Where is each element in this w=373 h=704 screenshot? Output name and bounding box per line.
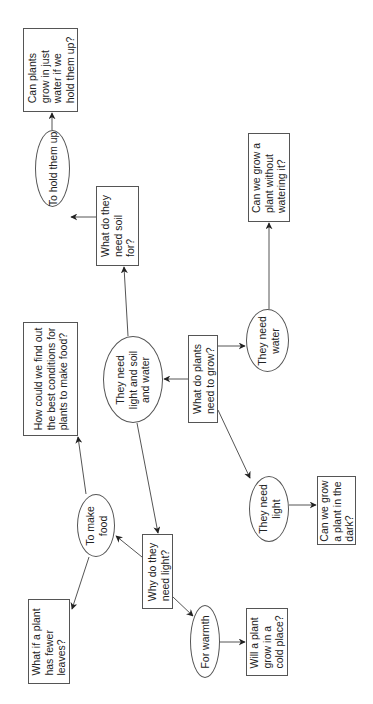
node-label: Why do they need light?	[145, 542, 170, 600]
node-label: For warmth	[199, 615, 212, 668]
node-label: What do plants need to grow?	[191, 344, 216, 414]
edge-make-food-to-best-conditions	[78, 437, 86, 494]
node-why-do-they-need-light: Why do they need light?	[142, 534, 173, 609]
node-label: What do they need soil for?	[99, 195, 137, 257]
node-they-need-water: They need water	[246, 309, 289, 372]
concept-map: Can plants grow in just water if we hold…	[0, 0, 373, 704]
node-label: They need water	[255, 316, 280, 366]
node-for-warmth: For warmth	[190, 605, 220, 678]
node-grow-without-watering: Can we grow a plant without watering it?	[248, 133, 290, 222]
node-what-do-they-need-soil-for: What do they need soil for?	[96, 186, 139, 266]
node-what-do-plants-need-to-grow: What do plants need to grow?	[188, 335, 218, 423]
node-label: What if a plant has fewer leaves?	[30, 608, 68, 675]
node-label: Can we grow a plant in the dark?	[318, 480, 356, 541]
edge-lsw-to-soil-for	[124, 267, 128, 336]
node-they-need-light: They need light	[249, 476, 289, 542]
node-to-hold-them-up: To hold them up	[35, 130, 70, 207]
edge-lsw-to-why-light	[137, 423, 158, 533]
edge-why-light-to-make-food	[116, 536, 142, 557]
node-fewer-leaves: What if a plant has fewer leaves?	[28, 599, 70, 684]
node-label: They need light and soil and water	[114, 350, 152, 408]
node-label: How could we find out the best condition…	[32, 328, 70, 431]
node-light-soil-and-water: They need light and soil and water	[103, 336, 163, 423]
edge-make-food-to-fewer-leaves	[72, 557, 89, 609]
node-label: To hold them up	[46, 131, 59, 206]
edge-root-to-light	[218, 410, 250, 478]
node-grow-in-cold-place: Will a plant grow in a cold place?	[246, 608, 288, 676]
node-grow-plant-in-dark: Can we grow a plant in the dark?	[317, 476, 356, 545]
node-label: Can we grow a plant without watering it?	[250, 142, 288, 212]
node-to-make-food: To make food	[77, 494, 115, 557]
node-label: To make food	[84, 506, 109, 546]
node-best-conditions-make-food: How could we find out the best condition…	[23, 322, 78, 436]
edge-why-light-to-warmth	[173, 597, 193, 616]
node-label: Will a plant grow in a cold place?	[248, 615, 286, 668]
node-label: They need light	[257, 484, 282, 534]
node-can-plants-grow-in-just-water: Can plants grow in just water if we hold…	[23, 28, 78, 112]
node-label: Can plants grow in just water if we hold…	[26, 37, 76, 104]
